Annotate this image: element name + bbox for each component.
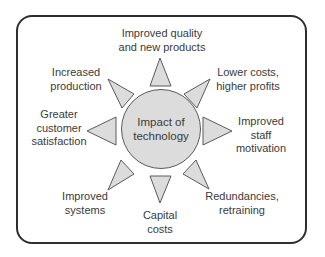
label-top: Improved quality and new products [119,27,206,54]
arrow-right [203,117,232,145]
arrow-bottom-right [183,160,209,189]
label-left: Greater customer satisfaction [31,108,86,149]
label-top-right: Lower costs, higher profits [216,66,280,93]
label-bottom: Capital costs [143,209,177,236]
center-label: Impact of technology [133,115,189,143]
arrow-bottom [150,176,171,203]
label-top-left: Increased production [50,66,101,93]
arrow-top [150,58,171,86]
label-bottom-left: Improved systems [62,190,108,217]
arrow-bottom-left [108,160,134,190]
label-right: Improved staff motivation [236,115,286,156]
label-bottom-right: Redundancies, retraining [205,190,278,217]
arrow-left [87,117,116,145]
